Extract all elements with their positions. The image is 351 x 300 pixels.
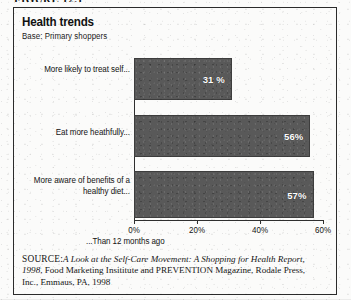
bar-1: 56% (134, 115, 310, 157)
x-tick-40 (260, 220, 261, 224)
chart-subtitle: Base: Primary shoppers (22, 31, 107, 41)
source-rest: , Food Marketing Insititute and PREVENTI… (22, 265, 305, 286)
bar-value-2: 57% (287, 189, 306, 200)
figure-caption: FIGURE 12.1 (14, 0, 83, 2)
chart-title: Health trends (22, 15, 94, 29)
source-label: SOURCE: (22, 254, 63, 264)
category-label-0: More likely to treat self... (24, 64, 130, 75)
x-tick-label-0: 0% (128, 225, 140, 235)
x-tick-60 (323, 220, 324, 224)
source-note: SOURCE:A Look at the Self-Care Movement:… (22, 254, 322, 288)
x-tick-20 (197, 220, 198, 224)
x-tick-label-40: 40% (252, 225, 268, 235)
bar-value-0: 31 % (203, 74, 225, 85)
scanned-page: FIGURE 12.1 Health trends Base: Primary … (0, 0, 351, 300)
x-tick-0 (134, 220, 135, 224)
category-label-2: More aware of benefits of a healthy diet… (24, 175, 130, 196)
x-tick-label-60: 60% (315, 225, 331, 235)
x-axis-line (134, 220, 324, 221)
plot-area: 31 % 56% 57% (134, 58, 323, 220)
bar-value-1: 56% (284, 131, 303, 142)
category-label-1: Eat more heathfully... (24, 127, 130, 138)
bar-2: 57% (134, 171, 314, 218)
bar-0: 31 % (134, 58, 232, 100)
x-axis-caption: ...Than 12 months ago (86, 236, 165, 246)
x-tick-label-20: 20% (189, 225, 205, 235)
